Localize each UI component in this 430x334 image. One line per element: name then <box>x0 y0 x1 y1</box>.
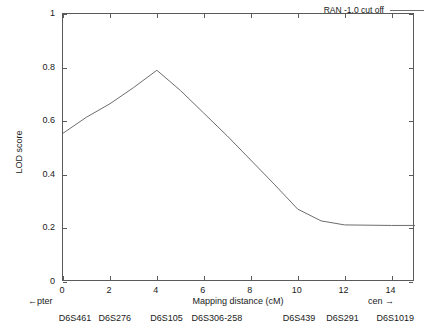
plot-area <box>62 13 414 281</box>
x-axis-tick <box>157 276 158 280</box>
x-axis-tick <box>204 276 205 280</box>
y-axis-tick-label: 1 <box>50 8 55 18</box>
x-axis-tick-label: 10 <box>292 285 302 295</box>
x-axis-tick-top <box>204 14 205 18</box>
genetic-marker-label: D6S461 <box>59 313 92 323</box>
x-axis-tick <box>63 276 64 280</box>
x-axis-tick <box>110 276 111 280</box>
y-axis-tick-label: 0.2 <box>42 222 55 232</box>
genetic-marker-label: D6S439 <box>283 313 316 323</box>
genetic-marker-label: D6S105 <box>150 313 183 323</box>
y-axis-tick <box>63 121 67 122</box>
data-series-svg <box>63 14 415 282</box>
x-axis-tick-top <box>251 14 252 18</box>
x-axis-title: Mapping distance (cM) <box>62 296 414 306</box>
x-axis-tick <box>392 276 393 280</box>
genetic-marker-label: D6S276 <box>99 313 132 323</box>
genetic-marker-label: D6S1019 <box>376 313 414 323</box>
y-axis-tick <box>63 14 67 15</box>
y-axis-tick-right <box>409 68 413 69</box>
y-axis-title: LOD score <box>14 117 24 187</box>
y-axis-tick <box>63 282 67 283</box>
x-axis-tick-label: 8 <box>247 285 252 295</box>
lod-score-chart-figure: LOD score RAN -1.0 cut off Mapping dista… <box>0 0 430 334</box>
x-axis-tick-label: 4 <box>153 285 158 295</box>
genetic-marker-label: D6S306-258 <box>192 313 243 323</box>
y-axis-tick-right <box>409 282 413 283</box>
series-line-ran-cutoff <box>63 70 415 225</box>
x-axis-tick-label: 14 <box>386 285 396 295</box>
x-axis-tick-label: 2 <box>106 285 111 295</box>
y-axis-tick <box>63 68 67 69</box>
legend: RAN -1.0 cut off <box>324 5 424 15</box>
y-axis-tick-label: 0 <box>50 276 55 286</box>
x-axis-tick-top <box>110 14 111 18</box>
x-axis-tick-label: 0 <box>59 285 64 295</box>
x-axis-tick <box>345 276 346 280</box>
x-axis-tick <box>298 276 299 280</box>
y-axis-tick-right <box>409 228 413 229</box>
x-axis-tick-top <box>298 14 299 18</box>
x-axis-tick-top <box>157 14 158 18</box>
legend-entry-label: RAN -1.0 cut off <box>324 5 384 15</box>
y-axis-tick <box>63 228 67 229</box>
y-axis-tick-label: 0.6 <box>42 115 55 125</box>
y-axis-tick-label: 0.8 <box>42 62 55 72</box>
legend-line-swatch <box>390 10 424 11</box>
y-axis-tick <box>63 175 67 176</box>
pter-orientation-label: ←pter <box>28 296 53 306</box>
genetic-marker-label: D6S291 <box>326 313 359 323</box>
x-axis-tick <box>251 276 252 280</box>
cen-orientation-label: cen → <box>368 296 394 306</box>
y-axis-tick-right <box>409 121 413 122</box>
y-axis-tick-label: 0.4 <box>42 169 55 179</box>
x-axis-tick-label: 6 <box>200 285 205 295</box>
x-axis-tick-label: 12 <box>339 285 349 295</box>
y-axis-tick-right <box>409 175 413 176</box>
